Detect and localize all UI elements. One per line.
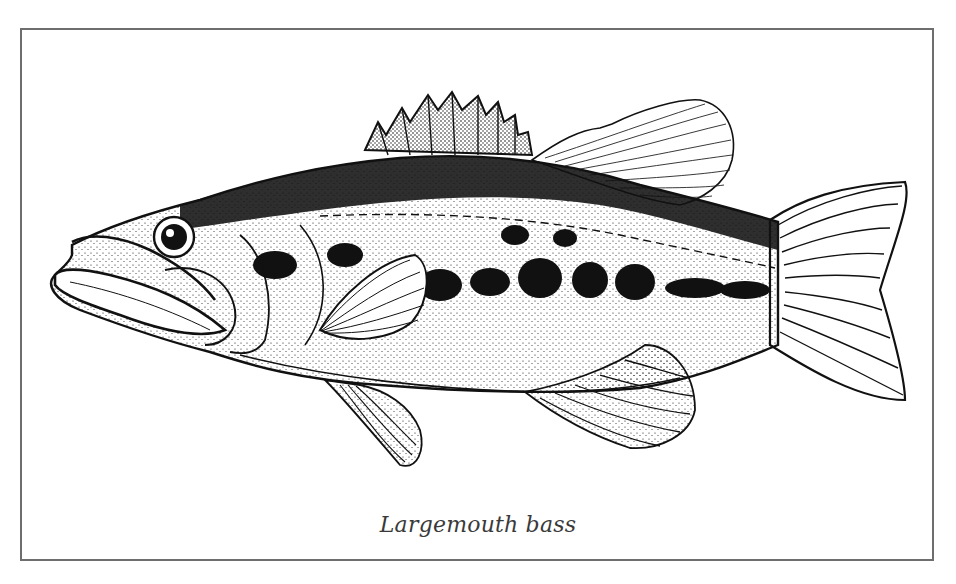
spiny-dorsal-fin: [365, 92, 532, 155]
caudal-fin: [770, 182, 907, 400]
pelvic-fin: [325, 380, 422, 466]
largemouth-bass-illustration: [0, 0, 956, 584]
figure-caption: Largemouth bass: [0, 512, 956, 537]
